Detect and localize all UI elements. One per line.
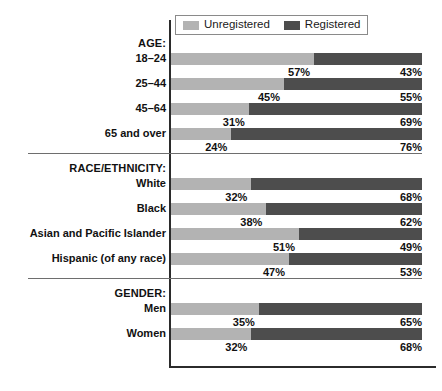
value-label-unregistered: 35% [199, 316, 255, 328]
registration-bar-chart: UnregisteredRegisteredAGE:18–2457%43%25–… [0, 0, 442, 391]
bar-segment-registered [289, 253, 422, 265]
bar-segment-unregistered [171, 103, 249, 115]
category-label: 45–64 [135, 102, 166, 114]
stacked-bar [171, 178, 422, 190]
chart-axis-line [169, 20, 171, 368]
value-label-unregistered: 24% [171, 141, 227, 153]
category-label: 25–44 [135, 77, 166, 89]
value-label-registered: 68% [362, 341, 422, 353]
legend-label: Registered [305, 19, 361, 31]
bar-segment-registered [299, 228, 422, 240]
value-label-unregistered: 32% [191, 341, 247, 353]
chart-legend: UnregisteredRegistered [175, 15, 368, 35]
stacked-bar [171, 328, 422, 340]
section-separator [28, 153, 422, 154]
value-label-unregistered: 57% [254, 66, 310, 78]
value-label-unregistered: 45% [224, 91, 280, 103]
category-label: Men [144, 302, 166, 314]
section-header: AGE: [138, 37, 166, 49]
stacked-bar [171, 303, 422, 315]
bar-segment-registered [259, 303, 422, 315]
value-label-unregistered: 47% [229, 266, 285, 278]
value-label-registered: 68% [362, 191, 422, 203]
bar-segment-registered [284, 78, 422, 90]
stacked-bar [171, 103, 422, 115]
category-label: Hispanic (of any race) [52, 252, 166, 264]
bar-segment-registered [314, 53, 422, 65]
category-label: 18–24 [135, 52, 166, 64]
category-label: White [136, 177, 166, 189]
bar-segment-unregistered [171, 53, 314, 65]
stacked-bar [171, 228, 422, 240]
stacked-bar [171, 128, 422, 140]
bar-segment-unregistered [171, 78, 284, 90]
bar-segment-registered [249, 103, 422, 115]
category-label: Black [137, 202, 166, 214]
value-label-registered: 53% [362, 266, 422, 278]
value-label-unregistered: 31% [189, 116, 245, 128]
value-label-registered: 76% [362, 141, 422, 153]
stacked-bar [171, 53, 422, 65]
section-header: GENDER: [115, 287, 166, 299]
category-label: 65 and over [105, 127, 166, 139]
bar-segment-unregistered [171, 228, 299, 240]
bar-segment-unregistered [171, 178, 251, 190]
stacked-bar [171, 78, 422, 90]
value-label-registered: 55% [362, 91, 422, 103]
bar-segment-unregistered [171, 303, 259, 315]
bar-segment-unregistered [171, 328, 251, 340]
value-label-unregistered: 51% [239, 241, 295, 253]
section-separator [28, 278, 422, 279]
bar-segment-registered [231, 128, 422, 140]
category-label: Asian and Pacific Islander [30, 227, 166, 239]
legend-swatch-unregistered-icon [183, 21, 199, 30]
legend-item-unregistered: Unregistered [183, 19, 270, 31]
legend-item-registered: Registered [284, 19, 361, 31]
bar-segment-registered [251, 178, 422, 190]
value-label-unregistered: 32% [191, 191, 247, 203]
category-label: Women [126, 327, 166, 339]
stacked-bar [171, 253, 422, 265]
value-label-unregistered: 38% [206, 216, 262, 228]
legend-swatch-registered-icon [284, 21, 300, 30]
value-label-registered: 69% [362, 116, 422, 128]
value-label-registered: 62% [362, 216, 422, 228]
stacked-bar [171, 203, 422, 215]
section-header: RACE/ETHNICITY: [69, 162, 166, 174]
legend-label: Unregistered [204, 19, 270, 31]
value-label-registered: 65% [362, 316, 422, 328]
bar-segment-unregistered [171, 253, 289, 265]
bar-segment-registered [266, 203, 422, 215]
bar-segment-registered [251, 328, 422, 340]
value-label-registered: 43% [362, 66, 422, 78]
chart-bottom-rule [169, 366, 436, 368]
bar-segment-unregistered [171, 203, 266, 215]
value-label-registered: 49% [362, 241, 422, 253]
bar-segment-unregistered [171, 128, 231, 140]
